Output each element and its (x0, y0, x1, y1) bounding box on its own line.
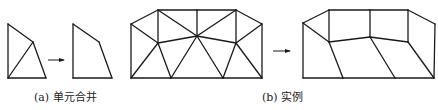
mesh-edge (370, 37, 408, 42)
mesh-edge (197, 36, 236, 43)
mesh-edge (197, 36, 223, 78)
mesh-edge (223, 43, 236, 78)
mesh-edge (158, 10, 197, 36)
mesh-edge (73, 24, 99, 42)
panel-b-before-mesh (131, 10, 262, 78)
mesh-edge (329, 42, 343, 78)
mesh-edge (236, 10, 262, 24)
mesh-edge (434, 24, 435, 78)
mesh-edge (131, 24, 158, 43)
mesh-edge (197, 10, 236, 36)
mesh-edge (408, 42, 434, 78)
mesh-edge (158, 43, 171, 78)
mesh-edge (303, 23, 329, 42)
mesh-edge (99, 42, 112, 78)
mesh-edge (8, 24, 33, 42)
mesh-edge (33, 42, 46, 78)
mesh-edge (171, 36, 197, 78)
mesh-edge (8, 42, 33, 78)
mesh-edge (236, 43, 262, 78)
mesh-edge (303, 10, 329, 23)
mesh-edge (131, 10, 158, 24)
panel-a-before-mesh (8, 24, 46, 78)
mesh-edge (158, 36, 197, 43)
mesh-edge (329, 37, 370, 42)
panel-a-after-mesh (73, 24, 112, 78)
caption-example: (b) 实例 (262, 91, 303, 104)
mesh-edge (236, 24, 262, 43)
caption-element-merge: (a) 单元合并 (34, 91, 97, 104)
mesh-edge (131, 43, 158, 78)
panel-b-after-mesh (303, 10, 435, 78)
mesh-edge (408, 10, 435, 24)
mesh-edge (370, 37, 395, 78)
